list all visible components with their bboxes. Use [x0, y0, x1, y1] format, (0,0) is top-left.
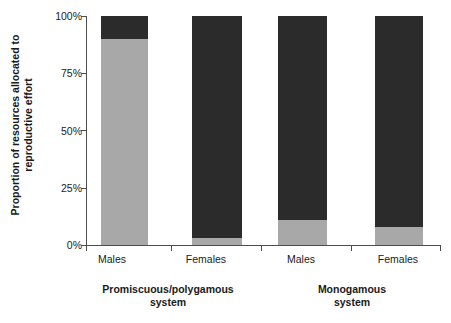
- x-tick-label-promiscuous-males: Males: [77, 253, 147, 266]
- y-axis-tick-labels: 0% 25% 50% 75% 100%: [40, 0, 82, 260]
- group-label-monogamous: Monogamous system: [266, 283, 438, 309]
- bar-segment-dark-monogamous-males: [278, 16, 327, 220]
- bar-segment-light-promiscuous-females: [192, 238, 242, 245]
- bar-segment-dark-promiscuous-females: [192, 16, 242, 238]
- y-tick-label-100: 100%: [42, 11, 82, 22]
- bar-segment-light-monogamous-males: [278, 220, 327, 245]
- y-tick-label-0: 0%: [42, 240, 82, 251]
- x-tick-mark-right-edge: [440, 246, 441, 251]
- group-label-promiscuous-line-1: Promiscuous/polygamous: [83, 283, 253, 296]
- y-axis-title: Proportion of resources allocated to rep…: [0, 0, 44, 250]
- x-tick-label-monogamous-males: Males: [266, 253, 336, 266]
- group-label-monogamous-line-2: system: [266, 296, 438, 309]
- y-tick-label-25: 25%: [42, 183, 82, 194]
- bar-monogamous-females: [375, 16, 423, 245]
- group-label-promiscuous: Promiscuous/polygamous system: [83, 283, 253, 309]
- x-tick-mark-divider-1: [171, 246, 172, 251]
- bar-monogamous-males: [278, 16, 327, 245]
- bar-segment-light-monogamous-females: [375, 227, 423, 245]
- group-label-promiscuous-line-2: system: [83, 296, 253, 309]
- bar-segment-dark-promiscuous-males: [101, 16, 148, 39]
- bar-segment-dark-monogamous-females: [375, 16, 423, 227]
- x-tick-label-monogamous-females: Females: [358, 253, 438, 266]
- y-tick-label-50: 50%: [42, 126, 82, 137]
- x-tick-mark-divider-3: [351, 246, 352, 251]
- x-axis-line: [86, 245, 441, 246]
- stacked-bar-chart: Proportion of resources allocated to rep…: [0, 0, 451, 323]
- bar-promiscuous-females: [192, 16, 242, 245]
- y-tick-label-75: 75%: [42, 68, 82, 79]
- y-axis-title-line-2: reproductive effort: [22, 35, 35, 216]
- plot-area: [86, 16, 441, 245]
- bar-promiscuous-males: [101, 16, 148, 245]
- group-label-monogamous-line-1: Monogamous: [266, 283, 438, 296]
- bar-segment-light-promiscuous-males: [101, 39, 148, 245]
- x-tick-mark-left-edge: [86, 246, 87, 251]
- x-tick-label-promiscuous-females: Females: [166, 253, 246, 266]
- y-axis-title-line-1: Proportion of resources allocated to: [9, 35, 22, 216]
- x-tick-mark-divider-2: [261, 246, 262, 251]
